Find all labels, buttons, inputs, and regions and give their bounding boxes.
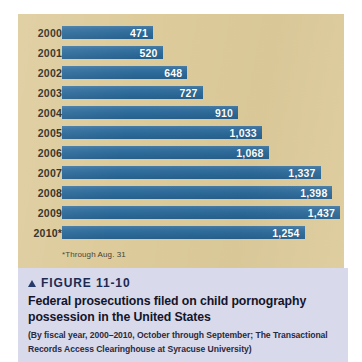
bar-value-label: 471 — [130, 27, 148, 39]
bar-value-label: 1,337 — [288, 167, 315, 179]
bar-row: 2010*1,254 — [18, 226, 344, 239]
bar-value-label: 727 — [180, 87, 198, 99]
bar-category-label: 2000 — [18, 27, 62, 39]
figure-source: (By fiscal year, 2000–2010, October thro… — [28, 329, 338, 357]
bar-value-label: 1,398 — [300, 187, 327, 199]
bar-value-label: 1,437 — [308, 207, 335, 219]
bar: 727 — [62, 86, 203, 99]
bar-category-label: 2008 — [18, 187, 62, 199]
figure-number-label: FIGURE 11-10 — [41, 276, 131, 290]
up-triangle-icon — [28, 280, 36, 287]
bar: 471 — [62, 26, 153, 39]
chart-panel: 2000471200152020026482003727200491020051… — [18, 14, 344, 268]
bar-row: 20051,033 — [18, 126, 344, 139]
figure-heading: FIGURE 11-10 — [28, 276, 338, 290]
bar: 1,398 — [62, 186, 332, 199]
figure-title-line-1: Federal prosecutions filed on child porn… — [28, 293, 338, 309]
bar: 1,033 — [62, 126, 262, 139]
bar-chart: 2000471200152020026482003727200491020051… — [18, 14, 344, 268]
bar-category-label: 2007 — [18, 167, 62, 179]
bar-row: 20071,337 — [18, 166, 344, 179]
bar-value-label: 1,068 — [236, 147, 263, 159]
bar-value-label: 1,254 — [272, 227, 299, 239]
bar-row: 20081,398 — [18, 186, 344, 199]
bar-category-label: 2003 — [18, 87, 62, 99]
bar-row: 2001520 — [18, 46, 344, 59]
bar-category-label: 2009 — [18, 207, 62, 219]
bar: 910 — [62, 106, 238, 119]
bar: 1,068 — [62, 146, 269, 159]
chart-footnote: *Through Aug. 31 — [62, 250, 126, 259]
bar-row: 2004910 — [18, 106, 344, 119]
figure-source-line-1: (By fiscal year, 2000–2010, October thro… — [28, 329, 338, 343]
bar-category-label: 2010* — [18, 227, 62, 239]
bar: 1,254 — [62, 226, 305, 239]
bar-row: 2003727 — [18, 86, 344, 99]
bar-category-label: 2004 — [18, 107, 62, 119]
bar-category-label: 2006 — [18, 147, 62, 159]
bar-row: 20091,437 — [18, 206, 344, 219]
bar: 1,337 — [62, 166, 321, 179]
bar-row: 20061,068 — [18, 146, 344, 159]
caption-panel: FIGURE 11-10 Federal prosecutions filed … — [18, 268, 348, 362]
bar-category-label: 2002 — [18, 67, 62, 79]
bar-value-label: 648 — [164, 67, 182, 79]
bar-value-label: 1,033 — [230, 127, 257, 139]
bar: 648 — [62, 66, 187, 79]
bar-category-label: 2001 — [18, 47, 62, 59]
bar: 520 — [62, 46, 163, 59]
figure-container: 2000471200152020026482003727200491020051… — [0, 0, 362, 362]
bar: 1,437 — [62, 206, 340, 219]
bar-value-label: 520 — [139, 47, 157, 59]
figure-title: Federal prosecutions filed on child porn… — [28, 293, 338, 325]
figure-title-line-2: possession in the United States — [28, 309, 338, 325]
bar-row: 2002648 — [18, 66, 344, 79]
bar-value-label: 910 — [215, 107, 233, 119]
figure-source-line-2: Records Access Clearinghouse at Syracuse… — [28, 343, 338, 357]
bar-category-label: 2005 — [18, 127, 62, 139]
bar-row: 2000471 — [18, 26, 344, 39]
